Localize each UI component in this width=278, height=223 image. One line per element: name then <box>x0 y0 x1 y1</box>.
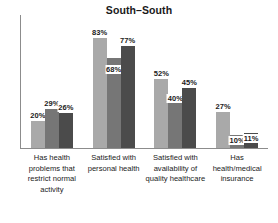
bar-value-label: 68% <box>105 65 122 75</box>
bar[interactable] <box>121 46 135 148</box>
category-label: Has health problems that restrict normal… <box>21 153 83 221</box>
bar-value-label: 77% <box>119 36 136 46</box>
bar-slot: 10% <box>230 15 244 148</box>
bar-value-label: 27% <box>215 102 232 112</box>
bar[interactable] <box>59 113 73 148</box>
bar-value-label: 83% <box>91 28 108 38</box>
bar[interactable] <box>182 88 196 148</box>
bar-slot: 29% <box>45 15 59 148</box>
category-label: Satisfied with availability of quality h… <box>145 153 207 221</box>
bar-group: 83%68%77% <box>83 15 145 148</box>
bar-value-label: 11% <box>243 134 260 144</box>
bar-slot: 26% <box>59 15 73 148</box>
bar-group-bars: 52%40%45% <box>145 15 207 148</box>
x-axis-line <box>20 148 268 149</box>
bar-slot: 83% <box>93 15 107 148</box>
bar-slot: 11% <box>244 15 258 148</box>
category-label: Satisfied with personal health <box>83 153 145 221</box>
bar-groups: 20%29%26%83%68%77%52%40%45%27%10%11% <box>21 15 268 148</box>
bar-slot: 20% <box>31 15 45 148</box>
bar[interactable] <box>31 121 45 148</box>
bar-value-label: 52% <box>153 69 170 79</box>
bar-value-label: 26% <box>57 103 74 113</box>
bar-slot: 52% <box>154 15 168 148</box>
chart-screenshot: South–South 20%29%26%83%68%77%52%40%45%2… <box>0 0 278 223</box>
bar-slot: 77% <box>121 15 135 148</box>
bar-group: 52%40%45% <box>145 15 207 148</box>
bar-group-bars: 83%68%77% <box>83 15 145 148</box>
category-labels: Has health problems that restrict normal… <box>21 153 268 221</box>
bar-group: 20%29%26% <box>21 15 83 148</box>
bar-group: 27%10%11% <box>206 15 268 148</box>
bar-group-bars: 20%29%26% <box>21 15 83 148</box>
bar-value-label: 45% <box>181 78 198 88</box>
bar-value-label: 20% <box>29 111 46 121</box>
bar[interactable] <box>93 38 107 148</box>
bar-value-label: 40% <box>167 94 184 104</box>
bar[interactable] <box>45 109 59 148</box>
bar-group-bars: 27%10%11% <box>206 15 268 148</box>
bar[interactable] <box>154 79 168 148</box>
category-label: Has health/medical insurance <box>206 153 268 221</box>
bar-slot: 27% <box>216 15 230 148</box>
bar-slot: 45% <box>182 15 196 148</box>
